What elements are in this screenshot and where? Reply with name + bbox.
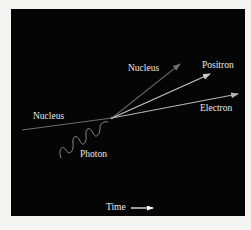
label-time: Time [106, 203, 126, 213]
label-positron: Positron [202, 61, 234, 71]
label-nucleus-incoming: Nucleus [33, 112, 64, 122]
label-electron: Electron [200, 104, 232, 114]
positron-arrow [112, 74, 210, 118]
label-nucleus-outgoing: Nucleus [128, 64, 159, 74]
label-photon: Photon [80, 150, 107, 160]
interaction-vertex [111, 117, 114, 120]
